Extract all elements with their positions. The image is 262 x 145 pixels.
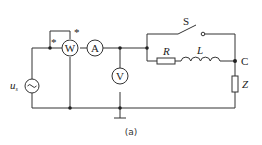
circuit-diagram: us W * * A V S R L C Z (a) [0, 0, 262, 145]
polarity-mark-current: * [51, 36, 57, 48]
polarity-mark-voltage: * [74, 26, 80, 38]
voltmeter-label: V [116, 70, 124, 82]
ammeter-label: A [91, 42, 99, 54]
switch-contact [201, 32, 205, 36]
inductor-label: L [196, 44, 203, 56]
inductor [181, 57, 220, 61]
junction-dot [118, 46, 122, 50]
wire-rl-left [147, 48, 157, 61]
wire-bottom-return [32, 92, 235, 108]
resistor [157, 58, 175, 64]
figure-caption: (a) [125, 127, 138, 137]
switch-label: S [183, 15, 189, 27]
node-c [233, 59, 237, 63]
impedance-label: Z [242, 78, 249, 90]
impedance [232, 76, 238, 92]
junction-dot [68, 106, 72, 110]
junction-dot [48, 46, 52, 50]
wattmeter-label: W [65, 42, 76, 54]
wires [32, 25, 235, 118]
wire-switch-right [203, 34, 235, 61]
junction-dot [145, 46, 149, 50]
source-label: us [10, 79, 19, 92]
node-c-label: C [241, 55, 248, 67]
junction-dot [118, 106, 122, 110]
wire-source-top [32, 48, 62, 80]
resistor-label: R [162, 45, 170, 57]
